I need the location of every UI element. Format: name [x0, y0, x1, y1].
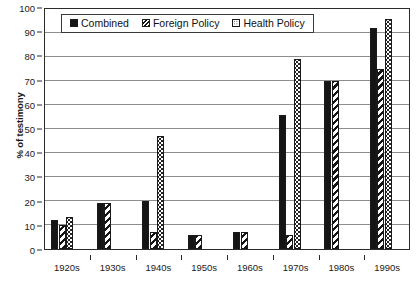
- y-tick-label: 20: [24, 196, 35, 207]
- bar-combined: [279, 115, 286, 249]
- x-tick-label: 1950s: [191, 262, 217, 273]
- y-tick-label: 10: [24, 220, 35, 231]
- legend-swatch-foreign: [142, 19, 150, 27]
- x-tick-label: 1960s: [237, 262, 263, 273]
- legend-swatch-health: [232, 19, 240, 27]
- bar-health: [294, 59, 301, 249]
- bar-group: [273, 9, 319, 249]
- x-tick-label: 1940s: [145, 262, 171, 273]
- bar-health: [157, 136, 164, 249]
- bars-layer: [45, 9, 409, 249]
- x-tick-label: 1970s: [283, 262, 309, 273]
- legend-label: Combined: [81, 17, 129, 29]
- chart-legend: CombinedForeign PolicyHealth Policy: [61, 14, 314, 33]
- y-tick-mark: [37, 80, 42, 81]
- bar-combined: [324, 81, 331, 249]
- bar-combined: [51, 220, 58, 249]
- bar-group: [364, 9, 410, 249]
- legend-entry: Health Policy: [232, 17, 304, 29]
- x-tick-label: 1920s: [54, 262, 80, 273]
- y-tick-mark: [37, 177, 42, 178]
- y-tick-mark: [37, 250, 42, 251]
- bar-group: [91, 9, 137, 249]
- bar-combined: [142, 201, 149, 249]
- x-tick-mark: [273, 255, 274, 260]
- bar-group: [227, 9, 273, 249]
- x-tick-label: 1980s: [328, 262, 354, 273]
- x-axis-tick-labels: 1920s1930s1940s1950s1960s1970s1980s1990s: [44, 262, 410, 278]
- y-tick-label: 80: [24, 51, 35, 62]
- bar-foreign: [195, 235, 202, 249]
- y-tick-label: 50: [24, 124, 35, 135]
- bar-foreign: [241, 232, 248, 249]
- y-tick-label: 0: [30, 245, 35, 256]
- x-tick-mark: [319, 255, 320, 260]
- bar-combined: [188, 235, 195, 249]
- x-tick-mark: [227, 255, 228, 260]
- legend-label: Health Policy: [243, 17, 304, 29]
- bar-foreign: [286, 235, 293, 249]
- legend-entry: Combined: [70, 17, 129, 29]
- bar-group: [182, 9, 228, 249]
- bar-group: [136, 9, 182, 249]
- x-tick-mark: [90, 255, 91, 260]
- y-tick-label: 90: [24, 27, 35, 38]
- y-tick-label: 40: [24, 148, 35, 159]
- x-tick-mark: [181, 255, 182, 260]
- plot-area: [44, 8, 410, 250]
- y-tick-label: 70: [24, 75, 35, 86]
- bar-group: [318, 9, 364, 249]
- bar-chart: % of testimony 0102030405060708090100 Co…: [0, 0, 418, 290]
- bar-combined: [370, 28, 377, 249]
- bar-health: [385, 19, 392, 249]
- bar-foreign: [104, 203, 111, 249]
- y-tick-mark: [37, 8, 42, 9]
- bar-combined: [97, 203, 104, 249]
- y-tick-mark: [37, 225, 42, 226]
- y-axis-tick-labels: 0102030405060708090100: [0, 8, 42, 250]
- bar-foreign: [150, 232, 157, 249]
- y-tick-mark: [37, 153, 42, 154]
- y-tick-mark: [37, 129, 42, 130]
- y-tick-mark: [37, 201, 42, 202]
- y-tick-mark: [37, 32, 42, 33]
- x-tick-label: 1930s: [100, 262, 126, 273]
- bar-foreign: [59, 225, 66, 249]
- bar-group: [45, 9, 91, 249]
- y-tick-label: 60: [24, 99, 35, 110]
- bar-foreign: [332, 81, 339, 249]
- y-tick-mark: [37, 104, 42, 105]
- x-tick-mark: [136, 255, 137, 260]
- bar-foreign: [377, 69, 384, 249]
- legend-entry: Foreign Policy: [142, 17, 220, 29]
- bar-combined: [233, 232, 240, 249]
- y-tick-label: 30: [24, 172, 35, 183]
- y-tick-label: 100: [19, 3, 35, 14]
- legend-swatch-combined: [70, 19, 78, 27]
- legend-label: Foreign Policy: [153, 17, 220, 29]
- x-tick-label: 1990s: [374, 262, 400, 273]
- bar-health: [66, 217, 73, 249]
- x-tick-mark: [364, 255, 365, 260]
- y-tick-mark: [37, 56, 42, 57]
